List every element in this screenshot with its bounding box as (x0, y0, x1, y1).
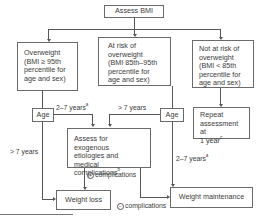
node-not-at-risk-line5: age and sex) (199, 79, 247, 88)
arrow-down-icon (91, 124, 95, 127)
connector (54, 114, 93, 115)
node-weight-maintenance: Weight maintenance (170, 187, 253, 208)
connector (220, 29, 221, 37)
connector (42, 122, 43, 199)
connector (92, 114, 93, 124)
plus-circle-icon: + (87, 172, 94, 179)
node-assess-bmi: Assess BMI (104, 5, 164, 18)
connector (134, 18, 135, 29)
node-repeat-assessment: Repeat assessment at 1 yearc (193, 107, 250, 139)
node-at-risk-line5: age and sex) (108, 76, 161, 85)
connector (140, 197, 167, 198)
node-at-risk: At risk of overweight (BMI 85th–95th per… (98, 37, 171, 86)
connector (172, 122, 173, 185)
footnote-divider (0, 214, 73, 215)
edge-label-plus-complications: +complications (87, 171, 136, 179)
edge-label-mid-gt-7-years: > 7 years (118, 104, 146, 112)
minus-circle-icon: − (117, 203, 124, 210)
node-assess-exogenous-line1: Assess for exogenous (74, 135, 144, 152)
edge-label-left-gt-7-years: > 7 years (10, 148, 38, 156)
edge-label-left-2-7-years: 2–7 yearsa (56, 104, 88, 112)
connector (48, 29, 49, 39)
connector (42, 199, 53, 200)
node-age-left: Age (32, 108, 54, 122)
connector (84, 168, 85, 187)
node-weight-maintenance-label: Weight maintenance (179, 193, 244, 202)
connector (172, 86, 173, 108)
connector (140, 168, 141, 197)
node-assess-exogenous-line2: etiologies and medical (74, 152, 144, 169)
node-repeat-line3: 1 yearc (200, 137, 243, 146)
arrow-down-icon (108, 124, 112, 127)
node-age-middle-label: Age (166, 111, 179, 120)
node-assess-bmi-label: Assess BMI (115, 7, 153, 16)
edge-label-minus-complications: −complications (117, 202, 166, 210)
node-weight-loss: Weight loss (56, 190, 111, 210)
connector (109, 114, 160, 115)
node-age-middle: Age (160, 108, 184, 122)
connector (109, 114, 110, 124)
node-not-at-risk: Not at risk of overweight (BMI < 85th pe… (192, 40, 254, 88)
node-weight-loss-label: Weight loss (65, 196, 102, 205)
node-age-left-label: Age (37, 111, 50, 120)
node-overweight: Overweight (BMI ≥ 95th percentile for ag… (17, 42, 78, 91)
node-assess-exogenous: Assess for exogenous etiologies and medi… (67, 128, 151, 168)
node-overweight-line4: age and sex) (24, 75, 71, 84)
edge-label-mid-2-7-years: 2–7 yearsa (176, 155, 208, 163)
connector (42, 91, 43, 108)
connector (220, 88, 221, 104)
